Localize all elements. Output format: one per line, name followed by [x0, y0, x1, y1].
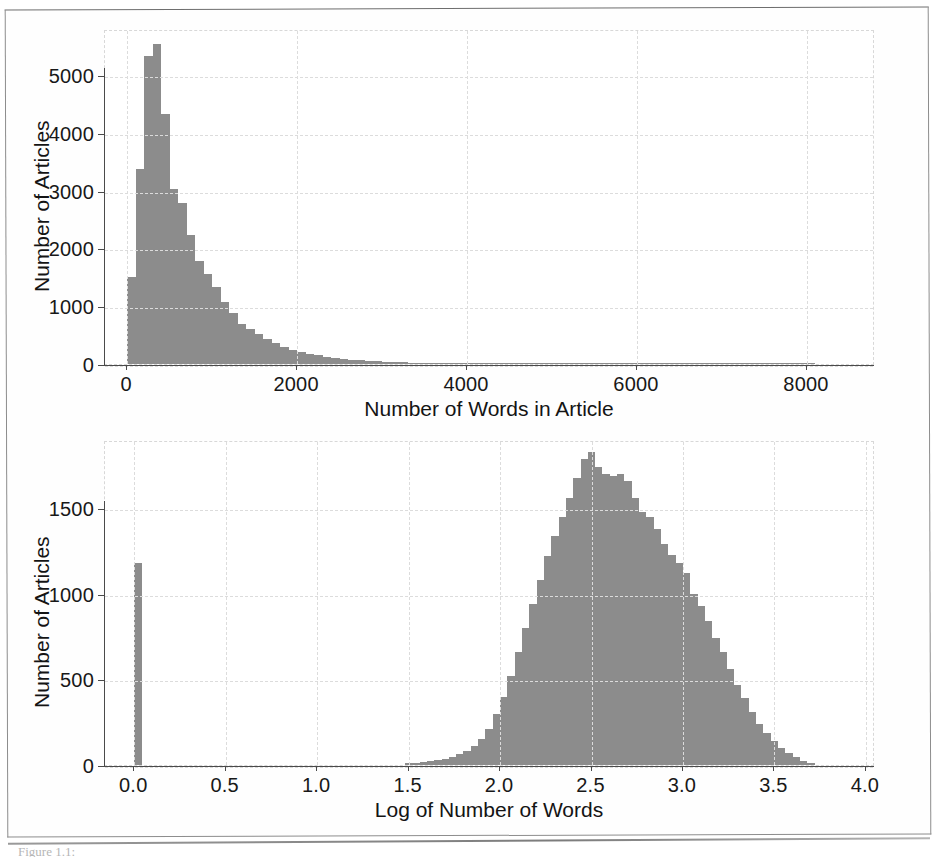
x-axis-tick-label: 3.5 [759, 774, 787, 797]
histogram-bar [617, 474, 624, 765]
gridline-horizontal [105, 366, 873, 367]
gridline-horizontal [105, 135, 873, 136]
y-axis-tick-label: 0 [8, 354, 94, 377]
histogram-bar [654, 529, 661, 765]
figure-caption: Figure 1.1: [18, 844, 75, 857]
histogram-bar [507, 676, 514, 765]
x-axis-tick-label: 1.5 [393, 774, 421, 797]
histogram-bar [807, 763, 814, 765]
gridline-horizontal [105, 510, 873, 511]
histogram-bar [255, 334, 263, 364]
histogram-bar [314, 355, 322, 364]
histogram-bar [357, 360, 365, 364]
histogram-bar [527, 363, 535, 364]
histogram-bar [471, 746, 478, 765]
y-axis-tick [98, 134, 104, 135]
histogram-bar [238, 324, 246, 364]
histogram-bar [442, 759, 449, 766]
gridline-horizontal [105, 681, 873, 682]
gridline-vertical [134, 442, 135, 765]
histogram-bar [434, 760, 441, 765]
histogram-bar [263, 339, 271, 364]
y-axis-tick-label: 0 [8, 755, 94, 778]
histogram-bar [800, 761, 807, 765]
histogram-bar [456, 754, 463, 765]
x-axis-tick-label: 0.0 [119, 774, 147, 797]
histogram-bar [195, 261, 203, 364]
histogram-bar [467, 363, 475, 364]
x-axis-tick [225, 766, 226, 771]
histogram-bar [712, 638, 719, 765]
gridline-vertical [592, 442, 593, 765]
histogram-bar [720, 652, 727, 765]
histogram-bar [559, 517, 566, 765]
histogram-bar [602, 474, 609, 765]
gridline-vertical [226, 442, 227, 765]
histogram-bar [671, 363, 705, 364]
x-axis-tick-label: 3.0 [668, 774, 696, 797]
histogram-bar [793, 757, 800, 765]
histogram-bar [778, 748, 785, 765]
histogram-bar [586, 363, 603, 364]
histogram-bar [170, 189, 178, 364]
histogram-bar [485, 729, 492, 765]
y-axis-tick [98, 307, 104, 308]
histogram-bar [690, 594, 697, 765]
gridline-vertical [127, 31, 128, 364]
histogram-bar [348, 360, 356, 365]
histogram-bar [518, 363, 526, 364]
histogram-bar [739, 363, 773, 364]
histogram-bar [463, 751, 470, 765]
y-axis-spine [104, 68, 105, 365]
histogram-bar [187, 235, 195, 364]
histogram-bar [595, 467, 602, 765]
y-axis-title-log-words: Number of Articles [30, 536, 54, 708]
x-axis-tick [499, 766, 500, 771]
x-axis-tick-label: 4.0 [851, 774, 879, 797]
gridline-horizontal [105, 767, 873, 768]
chart-panel-words: 010002000300040005000 02000400060008000 … [0, 0, 938, 420]
histogram-bar [127, 277, 135, 364]
histogram-bar [323, 357, 331, 364]
histogram-bar [425, 363, 433, 364]
histogram-bar [581, 459, 588, 765]
histogram-bar [399, 362, 407, 364]
gridline-vertical [500, 442, 501, 765]
x-axis-tick-label: 0 [120, 373, 131, 396]
x-axis-tick [466, 365, 467, 370]
histogram-bar [374, 361, 382, 364]
histogram-bar [773, 363, 807, 364]
histogram-bar [272, 343, 280, 364]
histogram-bar [537, 580, 544, 765]
gridline-vertical [637, 31, 638, 364]
x-axis-title-log-words: Log of Number of Words [375, 798, 603, 822]
y-axis-tick [98, 76, 104, 77]
histogram-bar [544, 363, 552, 364]
histogram-bar [620, 363, 637, 364]
histogram-bar [515, 652, 522, 765]
gridline-vertical [774, 442, 775, 765]
histogram-bar [449, 757, 456, 765]
histogram-bar [727, 669, 734, 765]
histogram-bar [544, 556, 551, 765]
histogram-bar [229, 313, 237, 364]
histogram-bar [476, 363, 484, 364]
histogram-bar [661, 544, 668, 765]
histogram-bar [501, 363, 509, 364]
gridline-horizontal [105, 308, 873, 309]
histogram-bar [624, 481, 631, 765]
histogram-bar [442, 363, 450, 364]
chart-panel-log-words: 050010001500 0.00.51.01.52.02.53.03.54.0… [0, 425, 938, 825]
x-axis-tick-label: 1.0 [302, 774, 330, 797]
histogram-bar [763, 733, 770, 765]
histogram-bar [408, 363, 416, 365]
histogram-bar [741, 698, 748, 765]
histogram-bar [297, 352, 305, 364]
histogram-bar [484, 363, 492, 364]
x-axis-tick [865, 766, 866, 771]
x-axis-tick-label: 2.5 [576, 774, 604, 797]
histogram-bar [493, 363, 501, 364]
histogram-bar [551, 536, 558, 765]
histogram-bar [785, 753, 792, 765]
x-axis-tick-label: 6000 [613, 373, 658, 396]
